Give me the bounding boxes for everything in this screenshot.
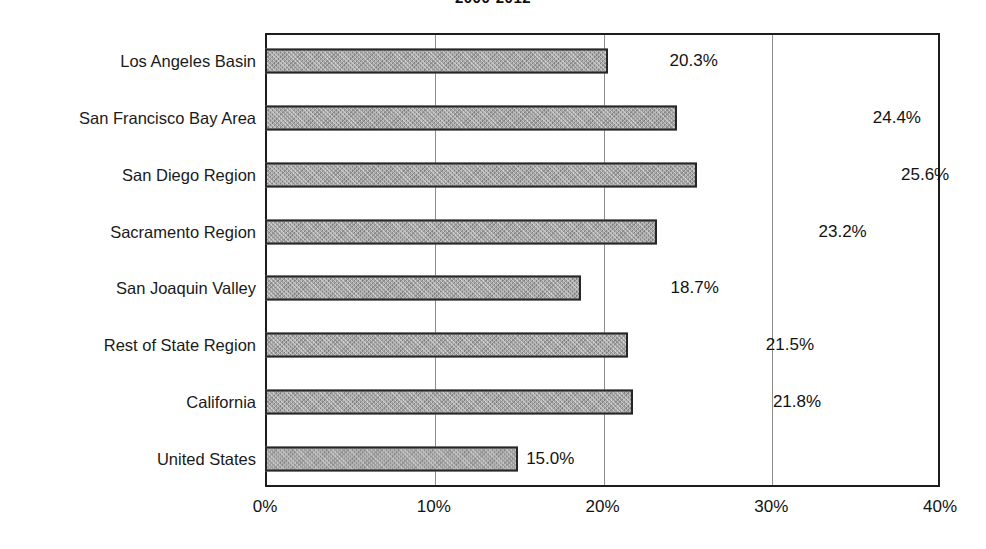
category-axis-labels: Los Angeles BasinSan Francisco Bay AreaS… [0,33,256,487]
bar-band [265,90,940,147]
category-label: United States [0,449,256,468]
value-label: 18.7% [671,278,719,298]
bar[interactable] [265,162,697,187]
value-label: 24.4% [873,108,921,128]
category-label: San Joaquin Valley [0,279,256,298]
value-label: 25.6% [901,165,949,185]
x-axis-labels: 0%10%20%30%40% [265,497,940,525]
x-tick-label: 10% [417,497,451,517]
bar[interactable] [265,333,628,358]
bar-band [265,33,940,90]
category-label: San Diego Region [0,165,256,184]
bars-layer [265,33,940,487]
x-tick-label: 30% [754,497,788,517]
bar[interactable] [265,389,633,414]
value-label: 20.3% [670,51,718,71]
value-label: 23.2% [819,222,867,242]
bar-band [265,430,940,487]
category-label: San Francisco Bay Area [0,109,256,128]
value-label: 21.8% [773,392,821,412]
bar[interactable] [265,446,518,471]
bar[interactable] [265,219,657,244]
x-tick-label: 20% [585,497,619,517]
bar-band [265,317,940,374]
chart-title: 2000-2012 [0,0,986,6]
x-tick-label: 40% [923,497,957,517]
bar-band [265,260,940,317]
bar[interactable] [265,49,608,74]
value-label: 15.0% [526,449,574,469]
bar-chart: 2000-2012 Los Angeles BasinSan Francisco… [0,0,986,549]
category-label: Rest of State Region [0,336,256,355]
value-label: 21.5% [766,335,814,355]
category-label: Sacramento Region [0,222,256,241]
bar[interactable] [265,106,677,131]
category-label: Los Angeles Basin [0,52,256,71]
x-tick-label: 0% [253,497,278,517]
category-label: California [0,392,256,411]
bar[interactable] [265,276,581,301]
bar-band [265,147,940,204]
bar-band [265,374,940,431]
